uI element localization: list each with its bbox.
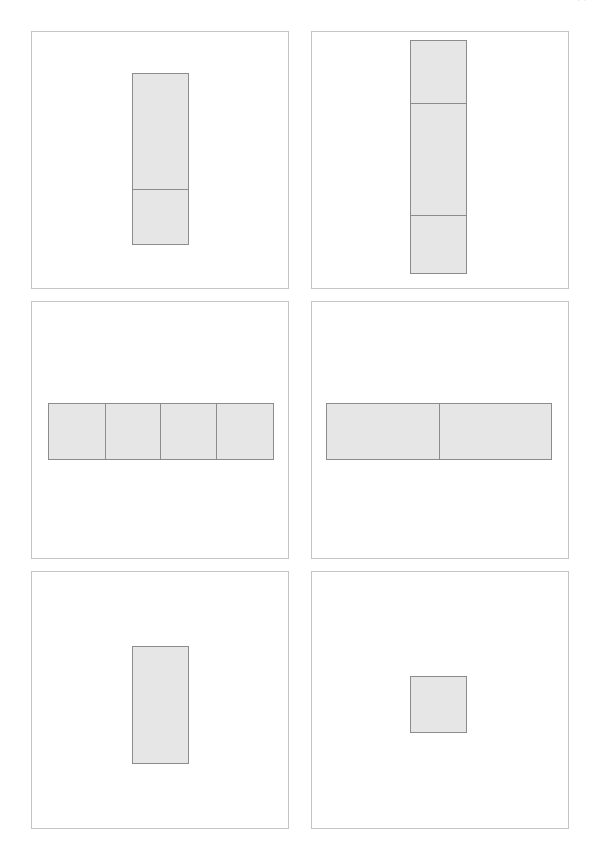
partitioned-rectangle [48,403,274,460]
figure-panel [311,571,569,829]
partitioned-rectangle [326,403,552,460]
figure-panel [311,31,569,289]
partition-cell [160,404,216,459]
partition-cell [439,404,551,459]
partition-cell [133,647,188,763]
partition-cell [216,404,272,459]
partition-cell [411,41,466,103]
partition-cell [105,404,161,459]
partition-cell [49,404,105,459]
partition-cell [411,215,466,273]
partitioned-rectangle [410,40,467,274]
page-canvas: · · [0,0,597,859]
partition-cell [411,677,466,732]
figure-panel [311,301,569,559]
partitioned-rectangle [410,676,467,733]
partitioned-rectangle [132,646,189,764]
partition-cell [327,404,439,459]
figure-panel [31,31,289,289]
panel-grid [0,0,597,859]
figure-panel [31,571,289,829]
partition-cell [133,74,188,189]
partition-cell [133,189,188,244]
partition-cell [411,103,466,215]
partitioned-rectangle [132,73,189,245]
figure-panel [31,301,289,559]
